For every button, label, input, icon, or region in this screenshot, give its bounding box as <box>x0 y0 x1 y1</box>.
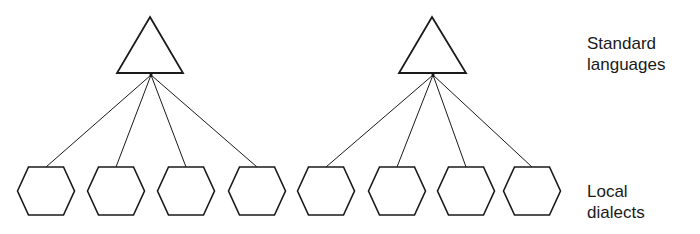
local-dialects-label: Local dialects <box>587 181 645 223</box>
hierarchy-link-line <box>433 75 532 167</box>
hierarchy-link-line <box>326 75 433 167</box>
hierarchy-link-line <box>151 75 257 167</box>
hierarchy-link-line <box>397 75 433 167</box>
standard-label-line2: languages <box>587 54 665 75</box>
local-label-line1: Local <box>587 181 645 202</box>
junction-dot-icon <box>431 73 434 76</box>
standard-triangle-icon <box>117 17 183 73</box>
standard-label-line1: Standard <box>587 33 665 54</box>
dialect-hexagon-icon <box>158 167 215 215</box>
hierarchy-link-line <box>116 75 151 167</box>
dialect-hexagon-icon <box>88 167 145 215</box>
dialect-hexagon-icon <box>504 167 561 215</box>
standard-language-nodes <box>117 17 466 77</box>
hierarchy-link-line <box>46 75 151 167</box>
standard-triangle-icon <box>399 17 466 73</box>
dialect-hexagon-icon <box>229 167 286 215</box>
connection-lines <box>46 75 532 167</box>
junction-dot-icon <box>149 73 152 76</box>
local-dialect-nodes <box>18 167 561 215</box>
dialect-hexagon-icon <box>18 167 75 215</box>
standard-languages-label: Standard languages <box>587 33 665 75</box>
hierarchy-link-line <box>433 75 466 167</box>
local-label-line2: dialects <box>587 202 645 223</box>
dialect-hexagon-icon <box>298 167 355 215</box>
hierarchy-link-line <box>151 75 186 167</box>
dialect-hexagon-icon <box>438 167 495 215</box>
dialect-hexagon-icon <box>369 167 426 215</box>
